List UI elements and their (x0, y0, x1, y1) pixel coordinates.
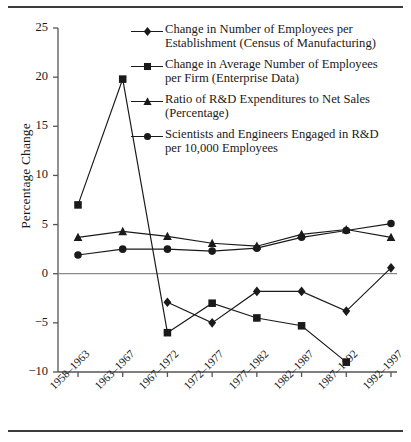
x-axis-tick-label: 1982–1987 (272, 348, 316, 392)
legend-label-line2: per Firm (Enterprise Data) (165, 71, 378, 85)
legend-label-line1: Change in Average Number of Employees (165, 57, 378, 71)
legend-diamond-icon (131, 24, 165, 39)
legend-item-square: Change in Average Number of Employeesper… (131, 57, 407, 85)
x-axis-tick-label: 1963–1967 (93, 348, 137, 392)
legend-circle-icon (131, 129, 165, 144)
legend-marker-square (142, 61, 153, 72)
legend-label: Ratio of R&D Expenditures to Net Sales(P… (165, 92, 370, 120)
x-axis-tick-label: 1967–1972 (137, 348, 181, 392)
legend-square-icon (131, 59, 165, 74)
legend-label: Change in Average Number of Employeesper… (165, 57, 378, 85)
legend-marker-circle (142, 131, 153, 142)
legend-label-line1: Ratio of R&D Expenditures to Net Sales (165, 92, 370, 106)
legend-label-line2: (Percentage) (165, 106, 370, 120)
legend-marker-triangle (142, 96, 153, 107)
legend-item-triangle: Ratio of R&D Expenditures to Net Sales(P… (131, 92, 407, 120)
x-axis-tick-label: 1987–1992 (316, 348, 360, 392)
x-axis-tick-label: 1992–1997 (361, 348, 405, 392)
x-axis-tick-label: 1958–1963 (48, 348, 92, 392)
x-axis-tick-label: 1972–1977 (182, 348, 226, 392)
chart-figure: Percentage Change 2520151050−5−10 1958–1… (0, 0, 411, 442)
legend-item-diamond: Change in Number of Employees perEstabli… (131, 22, 407, 50)
legend-marker-diamond (142, 26, 153, 37)
legend-triangle-icon (131, 94, 165, 109)
x-axis-tick-label: 1977–1982 (227, 348, 271, 392)
legend-item-circle: Scientists and Engineers Engaged in R&Dp… (131, 127, 407, 155)
legend-label-line1: Change in Number of Employees per (165, 22, 376, 36)
legend-label-line1: Scientists and Engineers Engaged in R&D (165, 127, 379, 141)
legend-label: Scientists and Engineers Engaged in R&Dp… (165, 127, 379, 155)
chart-legend: Change in Number of Employees perEstabli… (131, 22, 407, 162)
legend-label-line2: per 10,000 Employees (165, 141, 379, 155)
legend-label: Change in Number of Employees perEstabli… (165, 22, 376, 50)
legend-label-line2: Establishment (Census of Manufacturing) (165, 36, 376, 50)
